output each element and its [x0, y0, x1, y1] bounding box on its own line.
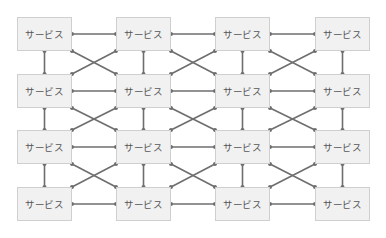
service-node-label: サービス [323, 140, 362, 154]
service-node-label: サービス [124, 84, 163, 98]
service-node[interactable]: サービス [315, 187, 370, 221]
service-node[interactable]: サービス [17, 17, 72, 51]
service-node[interactable]: サービス [315, 74, 370, 108]
service-node[interactable]: サービス [17, 187, 72, 221]
service-node[interactable]: サービス [315, 17, 370, 51]
service-node[interactable]: サービス [215, 130, 270, 164]
service-node-label: サービス [223, 27, 262, 41]
service-node-label: サービス [25, 27, 64, 41]
service-node-label: サービス [25, 197, 64, 211]
service-node-label: サービス [223, 140, 262, 154]
service-node-label: サービス [323, 84, 362, 98]
service-node[interactable]: サービス [116, 17, 171, 51]
service-node-label: サービス [25, 84, 64, 98]
service-node[interactable]: サービス [17, 74, 72, 108]
service-node-label: サービス [25, 140, 64, 154]
service-node-label: サービス [323, 197, 362, 211]
service-node[interactable]: サービス [116, 74, 171, 108]
service-node[interactable]: サービス [215, 187, 270, 221]
service-node[interactable]: サービス [116, 187, 171, 221]
service-node-label: サービス [323, 27, 362, 41]
service-node[interactable]: サービス [215, 17, 270, 51]
service-mesh-diagram: サービスサービスサービスサービスサービスサービスサービスサービスサービスサービス… [0, 0, 386, 238]
service-node-label: サービス [124, 140, 163, 154]
service-node[interactable]: サービス [17, 130, 72, 164]
service-node[interactable]: サービス [116, 130, 171, 164]
service-node-label: サービス [223, 197, 262, 211]
service-node[interactable]: サービス [215, 74, 270, 108]
service-node-label: サービス [124, 197, 163, 211]
service-node-label: サービス [223, 84, 262, 98]
service-node[interactable]: サービス [315, 130, 370, 164]
service-node-label: サービス [124, 27, 163, 41]
